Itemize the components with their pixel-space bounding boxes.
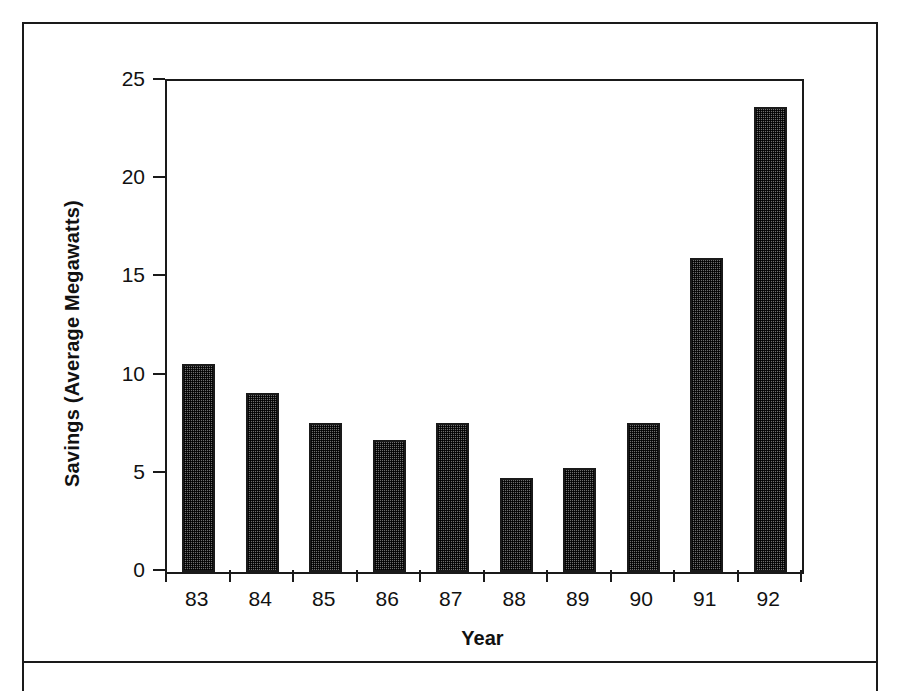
x-tick-mark bbox=[737, 570, 739, 582]
bar-91 bbox=[690, 258, 723, 572]
bar-86 bbox=[373, 440, 406, 572]
bar-chart: Savings (Average Megawatts) 0510152025 8… bbox=[22, 22, 878, 663]
y-tick-mark bbox=[153, 78, 165, 80]
y-tick-label: 15 bbox=[99, 264, 145, 285]
plot-area bbox=[165, 79, 804, 574]
bar-89 bbox=[563, 468, 596, 572]
x-tick-label-87: 87 bbox=[419, 588, 483, 609]
bar-87 bbox=[436, 423, 469, 572]
x-tick-label-85: 85 bbox=[292, 588, 356, 609]
x-tick-label-84: 84 bbox=[229, 588, 293, 609]
x-tick-mark bbox=[356, 570, 358, 582]
x-axis-tick-labels: 83848586878889909192 bbox=[165, 588, 800, 620]
bar-92 bbox=[754, 107, 787, 572]
x-tick-mark bbox=[229, 570, 231, 582]
y-tick-mark bbox=[153, 373, 165, 375]
x-tick-label-91: 91 bbox=[673, 588, 737, 609]
x-tick-label-90: 90 bbox=[610, 588, 674, 609]
bar-83 bbox=[182, 364, 215, 572]
y-tick-label: 20 bbox=[99, 166, 145, 187]
document-page-frame-lower bbox=[22, 663, 878, 691]
x-tick-mark bbox=[483, 570, 485, 582]
x-tick-mark bbox=[165, 570, 167, 582]
y-tick-mark bbox=[153, 176, 165, 178]
x-tick-label-86: 86 bbox=[356, 588, 420, 609]
x-tick-label-89: 89 bbox=[546, 588, 610, 609]
bar-84 bbox=[246, 393, 279, 572]
y-tick-mark bbox=[153, 569, 165, 571]
y-tick-label: 25 bbox=[99, 68, 145, 89]
x-tick-mark bbox=[673, 570, 675, 582]
bar-90 bbox=[627, 423, 660, 572]
y-tick-label: 0 bbox=[99, 559, 145, 580]
x-tick-mark bbox=[546, 570, 548, 582]
y-tick-mark bbox=[153, 274, 165, 276]
y-axis-title: Savings (Average Megawatts) bbox=[61, 134, 84, 554]
bar-88 bbox=[500, 478, 533, 572]
x-tick-mark bbox=[292, 570, 294, 582]
x-axis-title: Year bbox=[165, 627, 800, 650]
x-tick-label-88: 88 bbox=[483, 588, 547, 609]
y-tick-label: 10 bbox=[99, 363, 145, 384]
x-tick-mark bbox=[419, 570, 421, 582]
y-tick-mark bbox=[153, 471, 165, 473]
bar-85 bbox=[309, 423, 342, 572]
x-tick-mark bbox=[610, 570, 612, 582]
x-tick-label-83: 83 bbox=[165, 588, 229, 609]
x-tick-label-92: 92 bbox=[737, 588, 801, 609]
y-tick-label: 5 bbox=[99, 461, 145, 482]
x-tick-mark bbox=[800, 570, 802, 582]
